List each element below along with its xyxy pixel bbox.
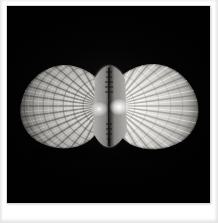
shell-specimen [7, 6, 210, 203]
left-umbo-highlight [90, 102, 108, 117]
right-umbo-highlight [109, 99, 129, 116]
hinge-region [90, 64, 129, 150]
photo-plate [7, 6, 210, 203]
photograph-card [0, 0, 218, 223]
specimen-contact-shadow [35, 148, 179, 158]
